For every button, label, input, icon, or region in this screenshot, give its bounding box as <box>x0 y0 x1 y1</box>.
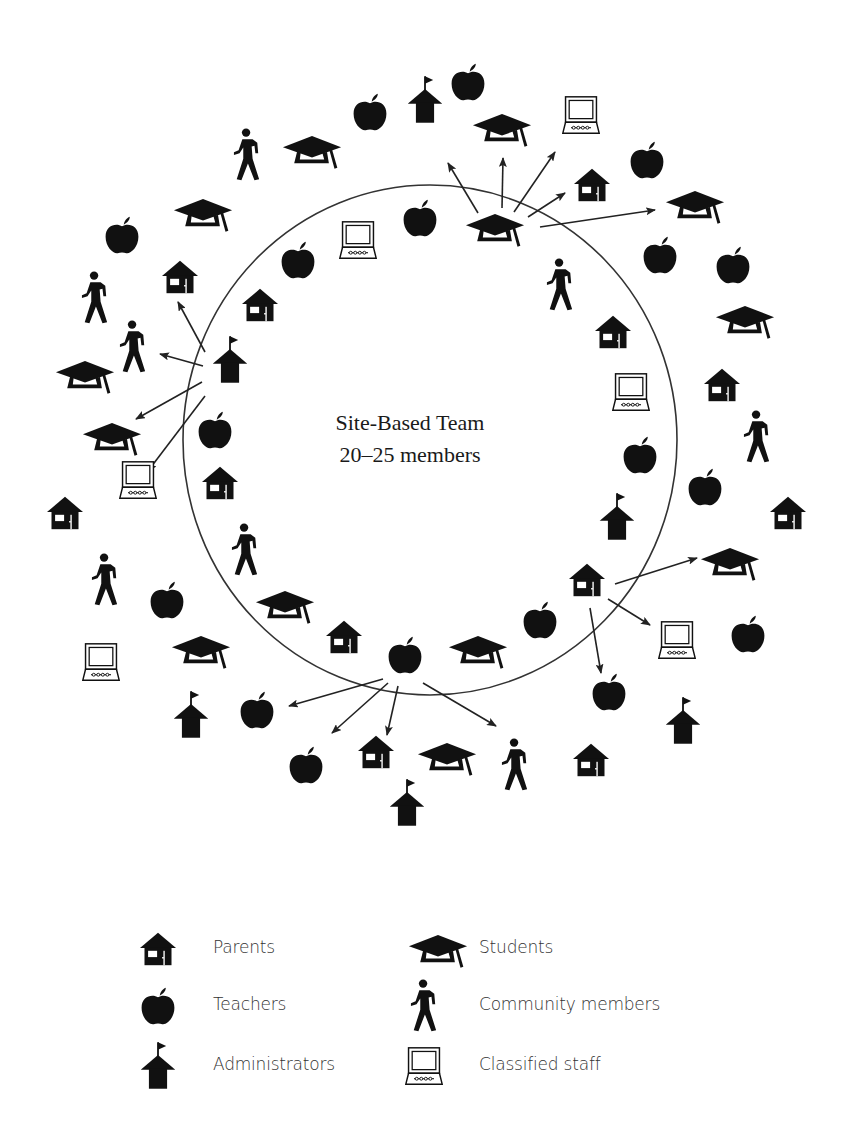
parent-house-icon <box>242 289 278 321</box>
administrator-school-icon <box>390 779 425 825</box>
student-cap-icon <box>701 548 759 581</box>
teacher-apple-icon <box>452 64 485 100</box>
student-cap-icon <box>256 591 314 624</box>
legend-label-students: Students <box>479 937 553 957</box>
parent-house-icon <box>162 261 198 293</box>
legend-label-classified-staff: Classified staff <box>479 1054 601 1074</box>
parent-house-icon <box>770 497 806 529</box>
parent-house-icon <box>595 316 631 348</box>
classified-computer-icon <box>406 1048 442 1084</box>
administrator-school-icon <box>174 691 209 737</box>
administrator-school-icon <box>600 493 635 539</box>
student-cap-icon <box>466 214 524 247</box>
arrow <box>178 302 205 352</box>
community-walker-icon <box>411 979 436 1031</box>
administrator-school-icon <box>666 697 701 743</box>
community-walker-icon <box>234 128 259 180</box>
arrow <box>615 558 697 584</box>
teacher-apple-icon <box>624 437 657 473</box>
team-title: Site-Based Team <box>300 408 520 438</box>
administrator-school-icon <box>141 1042 176 1088</box>
student-cap-icon <box>473 114 531 147</box>
teacher-apple-icon <box>389 637 422 673</box>
teacher-apple-icon <box>241 692 274 728</box>
teacher-apple-icon <box>524 602 557 638</box>
classified-computer-icon <box>659 622 695 658</box>
arrow <box>540 210 655 227</box>
classified-computer-icon <box>563 97 599 133</box>
parent-house-icon <box>573 744 609 776</box>
student-cap-icon <box>174 199 232 232</box>
teacher-apple-icon <box>732 616 765 652</box>
arrow <box>289 679 383 706</box>
parent-house-icon <box>326 621 362 653</box>
arrow <box>502 158 503 208</box>
community-walker-icon <box>744 410 769 462</box>
student-cap-icon <box>666 191 724 224</box>
teacher-apple-icon <box>689 469 722 505</box>
parent-house-icon <box>704 369 740 401</box>
student-cap-icon <box>449 636 507 669</box>
student-cap-icon <box>83 423 141 456</box>
arrow <box>423 683 496 726</box>
classified-computer-icon <box>120 462 156 498</box>
site-based-team-diagram <box>0 0 864 1141</box>
community-walker-icon <box>120 320 145 372</box>
parent-house-icon <box>569 564 605 596</box>
student-cap-icon <box>172 636 230 669</box>
community-walker-icon <box>82 271 107 323</box>
arrow <box>387 686 398 735</box>
community-walker-icon <box>92 553 117 605</box>
parent-house-icon <box>202 467 238 499</box>
community-walker-icon <box>502 738 527 790</box>
community-walker-icon <box>547 258 572 310</box>
parent-house-icon <box>47 497 83 529</box>
administrator-school-icon <box>408 76 443 122</box>
classified-computer-icon <box>613 374 649 410</box>
student-cap-icon <box>283 136 341 169</box>
teacher-apple-icon <box>717 247 750 283</box>
student-cap-icon <box>56 361 114 394</box>
teacher-apple-icon <box>290 747 323 783</box>
teacher-apple-icon <box>631 142 664 178</box>
arrow <box>448 163 478 213</box>
student-cap-icon <box>418 743 476 776</box>
diagram-stage: Site-Based Team 20–25 members ParentsTea… <box>0 0 864 1141</box>
teacher-apple-icon <box>199 412 232 448</box>
teacher-apple-icon <box>282 242 315 278</box>
arrow <box>590 608 601 673</box>
legend-label-teachers: Teachers <box>213 994 286 1014</box>
teacher-apple-icon <box>354 94 387 130</box>
parent-house-icon <box>358 736 394 768</box>
parent-house-icon <box>140 933 176 965</box>
legend-label-administrators: Administrators <box>213 1054 335 1074</box>
teacher-apple-icon <box>142 988 175 1024</box>
classified-computer-icon <box>340 222 376 258</box>
legend-label-parents: Parents <box>213 937 275 957</box>
teacher-apple-icon <box>644 237 677 273</box>
classified-computer-icon <box>83 644 119 680</box>
administrator-school-icon <box>213 336 248 382</box>
student-cap-icon <box>409 935 467 968</box>
teacher-apple-icon <box>106 217 139 253</box>
arrow <box>608 599 650 625</box>
teacher-apple-icon <box>404 200 437 236</box>
teacher-apple-icon <box>593 674 626 710</box>
legend-label-community-members: Community members <box>479 994 660 1014</box>
community-walker-icon <box>232 523 257 575</box>
parent-house-icon <box>574 169 610 201</box>
teacher-apple-icon <box>151 582 184 618</box>
arrow <box>528 193 565 217</box>
student-cap-icon <box>716 306 774 339</box>
team-size: 20–25 members <box>300 440 520 470</box>
